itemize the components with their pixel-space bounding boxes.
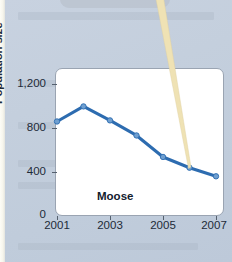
data-point xyxy=(54,119,59,124)
data-line-moose xyxy=(57,106,216,176)
data-point xyxy=(107,118,112,123)
data-point xyxy=(81,104,86,109)
pointer-group xyxy=(155,0,191,169)
chart-screenshot: Population size 1,200 800 400 0 2001 200… xyxy=(0,0,232,262)
stylus-pointer-icon xyxy=(155,0,191,169)
chart-overlay xyxy=(0,0,232,262)
data-point xyxy=(134,133,139,138)
data-point xyxy=(213,174,218,179)
data-point xyxy=(160,154,165,159)
data-line-group xyxy=(54,104,218,179)
